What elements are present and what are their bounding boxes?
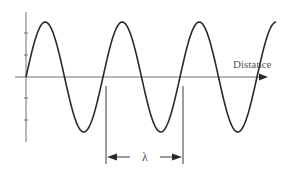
wavelength-right-arrow-icon [172,154,182,161]
wavelength-left-arrow-icon [107,154,117,161]
x-axis-label: Distance [233,58,272,70]
wavelength-label: λ [142,150,148,164]
x-axis-arrow-icon [259,74,268,81]
wave-diagram: λ Distance [0,0,297,172]
